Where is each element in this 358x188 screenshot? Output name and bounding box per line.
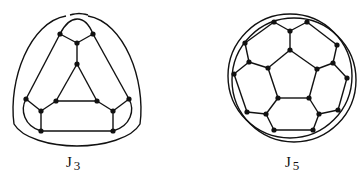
graph-vertex: [334, 42, 339, 47]
graph-edge: [113, 99, 129, 111]
graph-vertex: [74, 40, 79, 45]
outer-edge-circle: [232, 18, 356, 142]
graph-edge: [333, 45, 337, 63]
label-j5-main: J: [285, 154, 291, 170]
graph-vertex: [265, 65, 270, 70]
graph-edge: [245, 43, 249, 62]
graph-edge: [266, 114, 274, 130]
graph-vertex: [110, 108, 115, 113]
graph-vertex: [23, 96, 28, 101]
graph-edge: [247, 112, 266, 114]
graph-vertex: [271, 127, 276, 132]
graph-edge: [56, 64, 77, 101]
graph-edge: [290, 50, 317, 69]
graph-vertex: [242, 40, 247, 45]
graph-edge: [319, 110, 338, 114]
graph-vertex: [314, 66, 319, 71]
graph-vertex: [330, 60, 335, 65]
graph-vertex: [275, 95, 280, 100]
graph-edge: [41, 101, 56, 111]
graph-j5: [228, 14, 356, 142]
graph-vertex: [231, 71, 236, 76]
graph-vertex: [344, 75, 349, 80]
graph-edge: [249, 62, 268, 68]
graph-edge: [309, 98, 319, 114]
graph-edge: [266, 98, 278, 114]
graph-edge: [333, 63, 347, 78]
graph-vertex: [38, 128, 43, 133]
graph-vertex: [94, 98, 99, 103]
graph-edge: [77, 34, 93, 43]
graph-vertex: [287, 47, 292, 52]
graph-j3: [13, 14, 141, 147]
label-j5: J5: [285, 154, 299, 171]
graph-edge: [268, 68, 278, 98]
graph-edge: [26, 99, 41, 111]
graph-vertex: [246, 59, 251, 64]
graph-vertex: [53, 98, 58, 103]
graph-edge: [309, 69, 317, 98]
graph-edge: [77, 64, 97, 101]
graph-vertex: [304, 19, 309, 24]
graph-vertex: [263, 111, 268, 116]
graph-edge: [268, 50, 290, 68]
graph-edge: [60, 34, 77, 43]
outer-edge-curve: [70, 14, 88, 16]
graph-vertex: [110, 128, 115, 133]
graph-vertex: [271, 19, 276, 24]
graph-edge: [274, 22, 290, 31]
graph-vertex: [316, 111, 321, 116]
graph-figure: [0, 0, 358, 188]
graph-edge: [290, 22, 307, 31]
label-j5-sub: 5: [293, 158, 300, 173]
label-j3: J3: [66, 154, 80, 171]
graph-vertex: [74, 61, 79, 66]
graph-edge: [234, 62, 249, 74]
graph-vertex: [126, 96, 131, 101]
graph-vertex: [57, 31, 62, 36]
graph-vertex: [90, 31, 95, 36]
graph-edge: [97, 101, 113, 111]
graph-vertex: [335, 107, 340, 112]
graph-vertex: [306, 95, 311, 100]
label-j3-sub: 3: [74, 158, 81, 173]
graph-vertex: [310, 127, 315, 132]
outer-edge-curve: [60, 19, 93, 34]
graph-edge: [338, 78, 347, 110]
label-j3-main: J: [66, 154, 72, 170]
graph-vertex: [287, 28, 292, 33]
graph-vertex: [38, 108, 43, 113]
graph-edge: [245, 22, 274, 43]
graph-vertex: [244, 109, 249, 114]
